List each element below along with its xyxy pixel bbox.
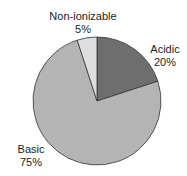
slice-percent: 20%: [145, 56, 185, 69]
label-acidic: Acidic 20%: [145, 43, 185, 69]
slice-name: Acidic: [145, 43, 185, 56]
slice-percent: 75%: [14, 156, 48, 169]
label-basic: Basic 75%: [14, 143, 48, 169]
slice-name: Non-ionizable: [48, 10, 118, 23]
slice-percent: 5%: [48, 23, 118, 36]
slice-name: Basic: [14, 143, 48, 156]
label-non-ionizable: Non-ionizable 5%: [48, 10, 118, 36]
